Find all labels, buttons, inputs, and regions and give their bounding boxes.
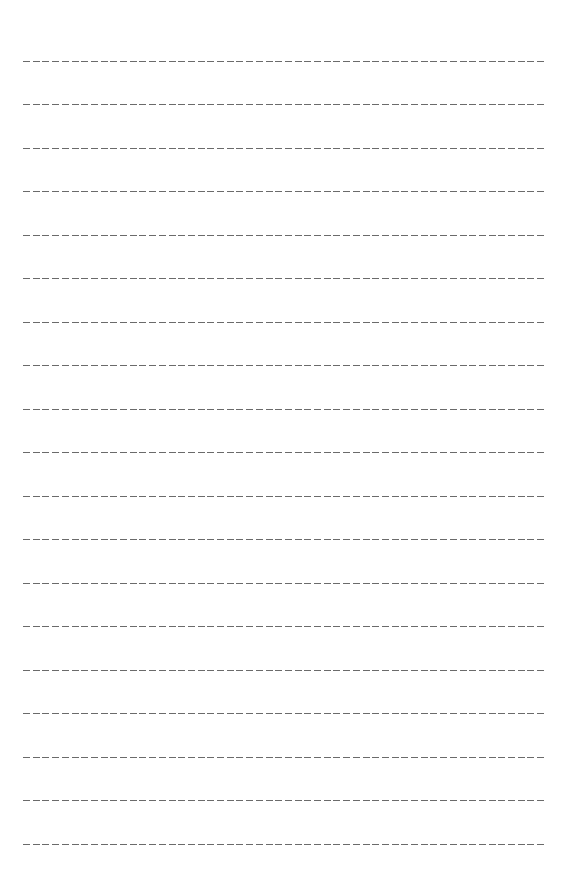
- ruled-line: [23, 409, 545, 410]
- ruled-line: [23, 148, 545, 149]
- ruled-line: [23, 365, 545, 366]
- ruled-line: [23, 757, 545, 758]
- ruled-line: [23, 713, 545, 714]
- ruled-line: [23, 844, 545, 845]
- ruled-line: [23, 670, 545, 671]
- ruled-line: [23, 452, 545, 453]
- ruled-line: [23, 61, 545, 62]
- ruled-line: [23, 191, 545, 192]
- ruled-line: [23, 583, 545, 584]
- ruled-sheet: [0, 0, 571, 886]
- ruled-line: [23, 539, 545, 540]
- ruled-line: [23, 626, 545, 627]
- ruled-line: [23, 104, 545, 105]
- ruled-line: [23, 800, 545, 801]
- ruled-line: [23, 322, 545, 323]
- ruled-line: [23, 235, 545, 236]
- ruled-line: [23, 496, 545, 497]
- ruled-line: [23, 278, 545, 279]
